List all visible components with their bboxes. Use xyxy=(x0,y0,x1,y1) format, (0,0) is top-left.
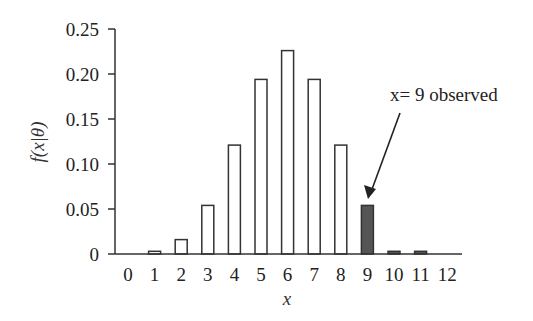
bar-6 xyxy=(282,51,294,254)
x-tick-label: 0 xyxy=(123,264,133,285)
y-ticks: 00.050.100.150.200.25 xyxy=(66,19,115,265)
y-axis-label: f(x|θ) xyxy=(27,122,49,163)
bar-4 xyxy=(228,145,240,254)
bar-7 xyxy=(308,79,320,254)
x-tick-label: 5 xyxy=(256,264,266,285)
chart: 00.050.100.150.200.25 0123456789101112 x… xyxy=(0,0,533,321)
x-tick-label: 7 xyxy=(309,264,319,285)
x-tick-label: 2 xyxy=(176,264,186,285)
y-tick-label: 0.10 xyxy=(66,154,99,175)
x-tick-label: 1 xyxy=(150,264,160,285)
x-tick-label: 4 xyxy=(230,264,240,285)
bar-5 xyxy=(255,79,267,254)
bar-9 xyxy=(361,205,373,254)
bar-2 xyxy=(175,240,187,254)
annotation: x= 9 observed xyxy=(364,84,498,199)
x-tick-label: 8 xyxy=(336,264,346,285)
y-tick-label: 0.05 xyxy=(66,199,99,220)
x-tick-label: 10 xyxy=(385,264,404,285)
x-ticks: 0123456789101112 xyxy=(123,264,456,285)
x-tick-label: 3 xyxy=(203,264,213,285)
annotation-text: x= 9 observed xyxy=(390,84,498,105)
y-tick-label: 0.25 xyxy=(66,19,99,40)
y-tick-label: 0 xyxy=(90,244,100,265)
bar-8 xyxy=(335,145,347,254)
x-axis-label: x xyxy=(282,288,292,309)
x-tick-label: 12 xyxy=(438,264,457,285)
bar-3 xyxy=(202,205,214,254)
x-tick-label: 6 xyxy=(283,264,293,285)
y-tick-label: 0.15 xyxy=(66,109,99,130)
y-tick-label: 0.20 xyxy=(66,64,99,85)
annotation-arrow-icon xyxy=(371,113,400,192)
x-tick-label: 11 xyxy=(411,264,429,285)
x-tick-label: 9 xyxy=(363,264,373,285)
arrowhead-icon xyxy=(364,185,376,199)
